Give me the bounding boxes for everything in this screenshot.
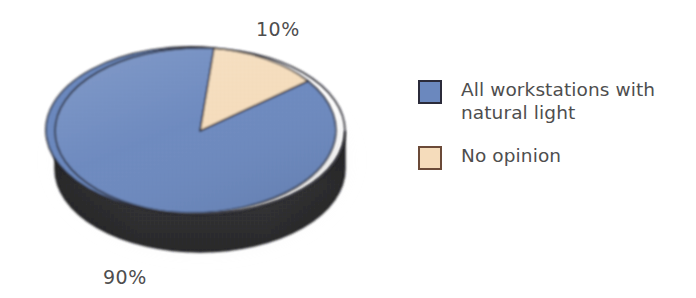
legend-label-no-opinion: No opinion	[461, 144, 561, 167]
chart-legend: All workstations with natural light No o…	[418, 78, 688, 190]
legend-swatch-no-opinion	[418, 146, 442, 170]
legend-swatch-all-workstations	[418, 80, 442, 104]
legend-item-all-workstations: All workstations with natural light	[418, 78, 688, 124]
pie-chart-svg	[0, 0, 400, 298]
pie-label-all-workstations-percent: 90%	[103, 268, 147, 287]
chart-screenshot: 10% 90% All workstations with natural li…	[0, 0, 696, 298]
legend-item-no-opinion: No opinion	[418, 144, 688, 170]
pie-chart-figure: 10% 90%	[0, 0, 400, 298]
pie-top-face	[46, 47, 345, 214]
legend-label-all-workstations: All workstations with natural light	[461, 78, 676, 124]
pie-top-sheen	[55, 48, 345, 214]
pie-label-no-opinion-percent: 10%	[256, 20, 300, 39]
